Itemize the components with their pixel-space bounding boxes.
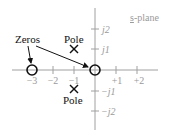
pole-label-lower: Pole <box>63 94 83 106</box>
x-tick-label-pos2: +2 <box>134 75 145 86</box>
y-tick-label-j2: j2 <box>100 24 110 35</box>
plane-label: s-plane <box>130 12 159 23</box>
x-tick-label-neg3: −3 <box>27 75 38 86</box>
s-plane-diagram: −3 −2 −1 +1 +2 j2 j1 −j1 −j2 s-plane Zer… <box>0 0 171 134</box>
y-tick-label-j1: j1 <box>100 44 110 55</box>
y-tick-label-negj1: −j1 <box>101 86 116 97</box>
pole-label-upper: Pole <box>64 33 84 45</box>
x-tick-label-neg2: −2 <box>48 75 59 86</box>
zeros-arrow-right <box>36 46 88 67</box>
pole-marker-upper <box>70 45 78 53</box>
zeros-arrow-left <box>28 46 31 63</box>
x-tick-label-neg1: −1 <box>69 75 80 86</box>
zeros-label: Zeros <box>15 33 40 45</box>
x-tick-label-pos1: +1 <box>112 75 123 86</box>
y-tick-label-negj2: −j2 <box>101 106 116 117</box>
pole-marker-lower <box>70 85 78 93</box>
